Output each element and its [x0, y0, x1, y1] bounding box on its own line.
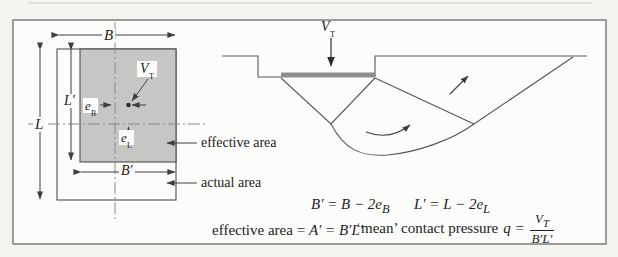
section-load-subscript: T — [330, 30, 335, 39]
equation-area-expr: A′ = B′L′ — [309, 222, 363, 238]
plan-load-subscript: T — [149, 72, 154, 81]
actual-area-label: actual area — [201, 176, 261, 190]
plan-load-symbol: V — [140, 61, 149, 76]
dim-label-L: L — [33, 117, 45, 132]
dim-label-B-prime: B′ — [119, 164, 135, 178]
section-load-label: VT — [321, 20, 335, 34]
fraction-num-subscript: T — [543, 217, 549, 229]
footing-bar — [281, 73, 375, 78]
equation-pressure-words: ‘mean’ contact pressure — [356, 221, 498, 236]
fraction-numerator: VT — [530, 212, 555, 230]
effective-area-label: effective area — [201, 136, 277, 150]
equation-L-prime-expr: L′ = L − 2e — [414, 196, 483, 212]
equation-contact-pressure: ‘mean’ contact pressure q = VT B′L′ — [356, 212, 554, 246]
figure-canvas: B L L′ B′ eB eL VT effective area actual… — [0, 0, 618, 257]
fraction-denominator: B′L′ — [530, 230, 555, 246]
equation-pressure-q: q = — [503, 221, 524, 236]
ecc-b-label: eB — [83, 98, 98, 113]
load-point-dot — [126, 103, 131, 108]
ecc-b-subscript: B — [91, 109, 96, 118]
ecc-l-label: eL — [119, 130, 134, 145]
dim-label-L-prime: L′ — [62, 94, 77, 108]
equation-area-words: effective area = — [212, 222, 309, 238]
equation-pressure-fraction: VT B′L′ — [530, 212, 555, 246]
equation-effective-area: effective area = A′ = B′L′ — [212, 223, 363, 238]
ecc-b-symbol: e — [85, 98, 91, 113]
fraction-num-symbol: V — [535, 211, 543, 226]
ecc-l-symbol: e — [121, 130, 127, 145]
equation-B-prime-expr: B′ = B − 2e — [311, 196, 382, 212]
dim-label-B: B — [102, 28, 115, 43]
ecc-l-subscript: L — [127, 141, 132, 150]
plan-load-label: VT — [137, 61, 157, 77]
section-load-symbol: V — [321, 19, 330, 34]
